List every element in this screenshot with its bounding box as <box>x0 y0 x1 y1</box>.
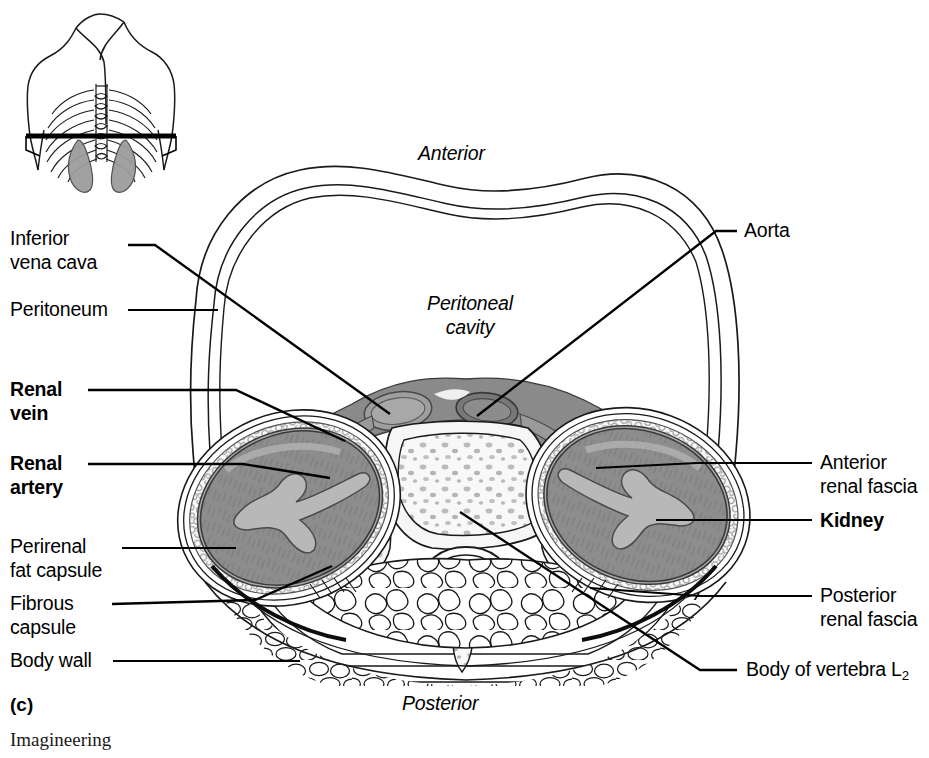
label-peritoneum: Peritoneum <box>10 297 108 321</box>
label-inferior-vena-cava: Inferior vena cava <box>10 226 97 274</box>
inset-left-kidney <box>68 140 92 192</box>
orientation-label-posterior: Posterior <box>402 691 478 715</box>
label-vertebra-subscript: 2 <box>902 668 909 683</box>
label-perirenal-fat-capsule: Perirenal fat capsule <box>10 534 102 582</box>
label-renal-vein: Renal vein <box>10 377 62 425</box>
artist-credit: Imagineering <box>10 729 111 751</box>
label-posterior-renal-fascia: Posterior renal fascia <box>820 583 917 631</box>
anatomy-illustration <box>0 0 929 758</box>
label-body-wall: Body wall <box>10 648 92 672</box>
label-kidney: Kidney <box>820 508 884 532</box>
peritoneal-cavity-label: Peritoneal cavity <box>400 291 540 339</box>
inset-right-kidney <box>111 140 135 192</box>
kidney-cross-section-figure: Anterior Posterior Peritoneal cavity Inf… <box>0 0 929 758</box>
vertebral-marrow <box>398 433 539 535</box>
panel-letter: (c) <box>10 694 33 716</box>
label-body-of-vertebra: Body of vertebra L2 <box>746 657 909 688</box>
orientation-label-anterior: Anterior <box>418 141 485 165</box>
label-body-of-vertebra-text: Body of vertebra L <box>746 658 902 680</box>
label-anterior-renal-fascia: Anterior renal fascia <box>820 450 917 498</box>
label-aorta: Aorta <box>744 218 790 242</box>
torso-orientation-inset <box>26 14 176 192</box>
transverse-section-body <box>147 166 778 692</box>
label-renal-artery: Renal artery <box>10 451 63 499</box>
label-fibrous-capsule: Fibrous capsule <box>10 591 76 639</box>
